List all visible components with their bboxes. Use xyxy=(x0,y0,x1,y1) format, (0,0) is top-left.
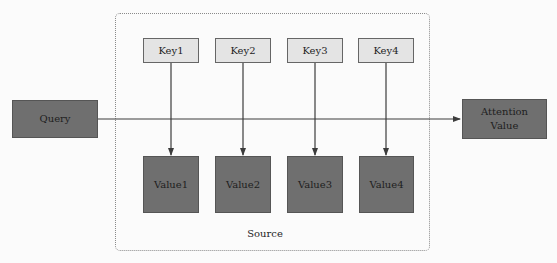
key-label: Key2 xyxy=(230,44,255,58)
value-label: Value3 xyxy=(298,178,332,192)
key-label: Key4 xyxy=(373,44,398,58)
attention-label-line1: Attention xyxy=(481,105,528,119)
value-box-2: Value2 xyxy=(215,156,271,213)
value-box-3: Value3 xyxy=(287,156,343,213)
key-box-2: Key2 xyxy=(215,38,271,63)
attention-label-line2: Value xyxy=(491,119,519,133)
key-label: Key3 xyxy=(302,44,327,58)
attention-value-box: Attention Value xyxy=(462,99,547,139)
query-label: Query xyxy=(40,112,71,126)
key-box-1: Key1 xyxy=(143,38,199,63)
value-label: Value1 xyxy=(154,178,188,192)
value-label: Value2 xyxy=(226,178,260,192)
value-label: Value4 xyxy=(369,178,403,192)
key-box-3: Key3 xyxy=(287,38,343,63)
query-box: Query xyxy=(12,100,98,138)
value-box-1: Value1 xyxy=(143,156,199,213)
key-label: Key1 xyxy=(158,44,183,58)
key-box-4: Key4 xyxy=(358,38,414,63)
value-box-4: Value4 xyxy=(359,156,414,213)
source-label: Source xyxy=(245,228,285,239)
